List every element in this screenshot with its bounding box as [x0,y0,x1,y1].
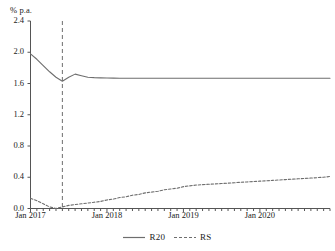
y-tick-label: 2.4 [4,16,24,25]
x-tick-label: Jan 2020 [232,211,288,220]
legend-label-r20: R20 [149,232,165,242]
legend-entry-r20: R20 [123,232,165,242]
x-tick-label: Jan 2019 [155,211,211,220]
y-tick-label: 2.0 [4,47,24,56]
legend-swatch-dashed [174,234,196,241]
y-tick-label: 0.4 [4,172,24,181]
y-tick-label: 1.2 [4,110,24,119]
series-line-r20 [31,54,331,81]
legend-label-rs: RS [200,232,211,242]
series-line-rs [31,176,331,208]
x-tick-label: Jan 2018 [79,211,135,220]
y-tick-label: 0.8 [4,141,24,150]
series-paths [31,54,331,209]
y-tick-label: 1.6 [4,79,24,88]
legend-entry-rs: RS [174,232,211,242]
x-tick-label: Jan 2017 [3,211,59,220]
chart-legend: R20 RS [0,232,335,242]
axis-lines [31,21,331,209]
chart-figure: % p.a. 0.00.40.81.21.62.02.4 Jan 2017Jan… [0,0,335,251]
legend-swatch-solid [123,234,145,241]
